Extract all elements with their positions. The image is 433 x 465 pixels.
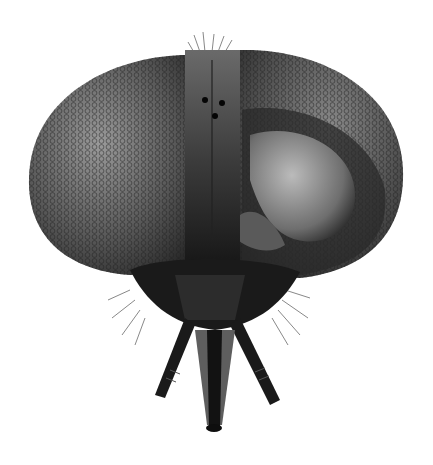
insect-head-illustration <box>0 0 433 465</box>
lower-face <box>130 259 300 330</box>
right-compound-eye <box>238 50 403 278</box>
ocellus <box>212 113 218 119</box>
frons <box>185 50 240 270</box>
ocellus <box>219 100 225 106</box>
left-compound-eye <box>29 55 205 275</box>
insect-head-image <box>0 0 433 465</box>
ocellus <box>202 97 208 103</box>
proboscis <box>195 330 235 432</box>
